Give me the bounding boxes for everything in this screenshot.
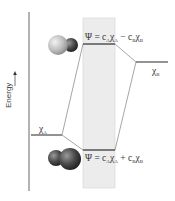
energy-axis-label: Energy <box>4 83 13 108</box>
antibonding-orbital-shape-icon <box>48 35 78 55</box>
bonding-orbital-shape-icon <box>48 148 81 170</box>
chi-a-label: χA <box>39 125 47 135</box>
energy-arrow-icon <box>13 71 17 86</box>
antibonding-equation: Ψ = cAχA − cBχB <box>85 33 143 43</box>
chi-b-label: χB <box>152 67 160 77</box>
bonding-equation: Ψ = cAχA + cBχB <box>85 154 143 164</box>
mo-diagram-canvas <box>0 0 175 201</box>
